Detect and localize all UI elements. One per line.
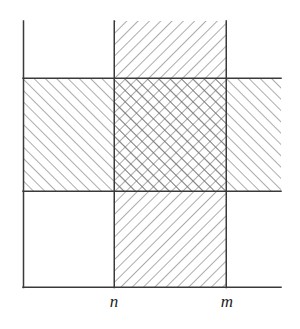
tick-label-m: m: [221, 292, 233, 311]
figure-root: n m: [0, 0, 300, 329]
tick-label-n: n: [110, 292, 119, 311]
region-intersection-crosshatch: [114, 78, 226, 191]
hatched-band-diagram: n m: [0, 0, 300, 329]
